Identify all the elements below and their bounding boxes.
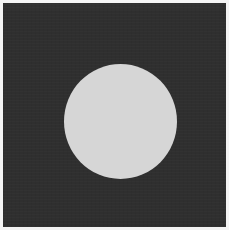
dark-square-background xyxy=(3,3,226,227)
light-gray-circle xyxy=(64,64,177,179)
